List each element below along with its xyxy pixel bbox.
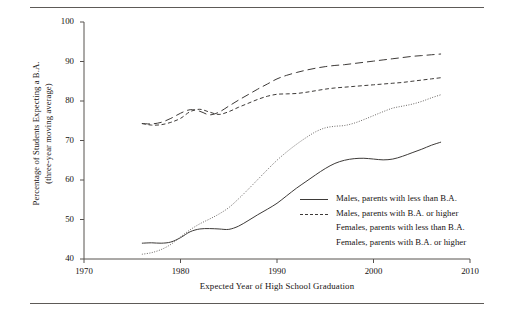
legend-item-2: Females, parents with less than B.A.: [300, 222, 512, 237]
y-axis-label-line1: Percentage of Students Expecting a B.A.: [31, 62, 41, 206]
legend-label-1: Males, parents with B.A. or higher: [336, 208, 458, 218]
chart-legend: Males, parents with less than B.A.Males,…: [300, 193, 512, 251]
legend-key-icon-0: [300, 199, 328, 200]
legend-item-0: Males, parents with less than B.A.: [300, 193, 512, 208]
y-tick-label-80: 80: [44, 95, 74, 105]
legend-item-3: Females, parents with B.A. or higher: [300, 237, 512, 252]
series-line-1: [142, 78, 441, 125]
x-tick-label-1980: 1980: [161, 266, 201, 276]
x-tick-label-1970: 1970: [64, 266, 104, 276]
x-tick-label-1990: 1990: [257, 266, 297, 276]
y-tick-label-100: 100: [44, 16, 74, 26]
y-tick-label-50: 50: [44, 214, 74, 224]
legend-label-2: Females, parents with less than B.A.: [336, 222, 465, 232]
legend-item-1: Males, parents with B.A. or higher: [300, 208, 512, 223]
y-tick-label-90: 90: [44, 56, 74, 66]
legend-label-3: Females, parents with B.A. or higher: [336, 237, 466, 247]
y-tick-label-70: 70: [44, 135, 74, 145]
legend-key-icon-1: [300, 214, 328, 215]
y-tick-label-60: 60: [44, 174, 74, 184]
legend-label-0: Males, parents with less than B.A.: [336, 193, 457, 203]
y-tick-label-40: 40: [44, 253, 74, 263]
y-tick-marks: [80, 22, 84, 259]
figure-container: Percentage of Students Expecting a B.A. …: [0, 0, 514, 313]
